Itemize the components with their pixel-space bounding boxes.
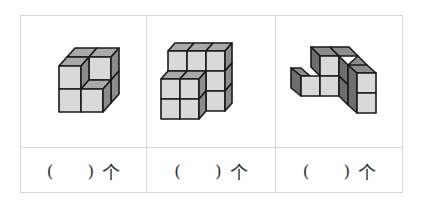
cube-stack-figure-3 [276, 16, 403, 147]
answer-close-paren: ) [88, 161, 95, 181]
counting-table: ( ) 个 ( ) 个 ( ) 个 [20, 15, 403, 193]
cube-stack-figure-1 [21, 16, 146, 147]
unit-label: 个 [358, 158, 376, 184]
figure-cell-2 [147, 16, 275, 147]
answer-cell-2[interactable]: ( ) 个 [147, 148, 275, 193]
unit-label: 个 [102, 158, 120, 184]
answer-cell-3[interactable]: ( ) 个 [276, 148, 403, 193]
figure-cell-3 [276, 16, 403, 147]
figure-cell-1 [21, 16, 146, 147]
cube-stack-figure-2 [147, 16, 275, 147]
answer-open-paren: ( [303, 161, 310, 181]
answer-open-paren: ( [47, 161, 54, 181]
answer-close-paren: ) [215, 161, 222, 181]
answer-close-paren: ) [344, 161, 351, 181]
answer-open-paren: ( [174, 161, 181, 181]
unit-label: 个 [230, 158, 248, 184]
answer-cell-1[interactable]: ( ) 个 [21, 148, 146, 193]
